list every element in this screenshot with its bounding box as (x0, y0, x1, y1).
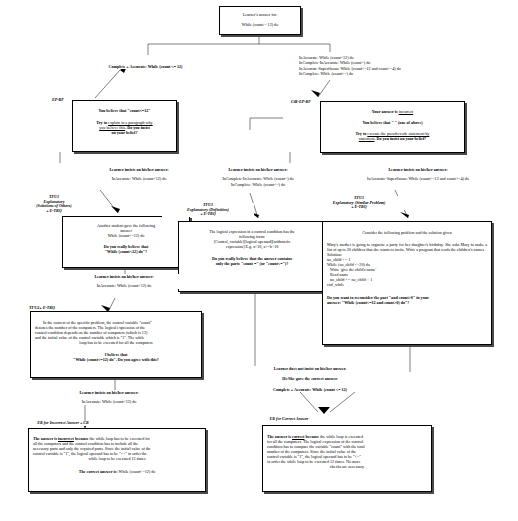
tfu1-sim-q1: Do you want to reconsider the part "and … (327, 288, 487, 300)
tfu1-sim-line1: Consider the following problem and the s… (327, 225, 487, 235)
not-insist-l2: He/She gave the correct answer. (215, 371, 405, 381)
node-learner-answer[interactable]: Learner's answer for: While (count = 12)… (219, 6, 301, 35)
label-tfu1-similar: TFU1 Explanatory (Similar Problem) + E-T… (305, 196, 413, 210)
edge-not-insist: Learner does not insist on his/her answe… (215, 366, 405, 392)
label-tfu1-solutions: TFU1 Explanatory (Solutions of Others) +… (18, 195, 90, 214)
er-inc-final-b: While (count<=12) do (119, 469, 156, 474)
node-tfu1-definition[interactable]: The logical expression in a control cond… (178, 221, 326, 292)
tfu1-def-line5: Do you really believe that the answer co… (183, 249, 321, 261)
cir-line2: You believe that " " (one of above) (325, 114, 460, 125)
node-tfu1-solutions-of-others[interactable]: Another student gave the following answe… (62, 216, 190, 268)
ep-rf-line4: on your belief? (77, 130, 172, 135)
tfu2-line1: In the context of the specific problem, … (35, 315, 197, 325)
er-inc-final: The correct answer is: While (count<=12)… (33, 461, 201, 474)
root-line1: Learner's answer for: (224, 10, 296, 17)
insists-bottom-body: InAccurate: While (count<12) do (35, 395, 183, 404)
tfu1-def-line6: only the parts "count =" (or "count<=")? (183, 261, 321, 266)
label-cir-ep-rf: CiR-EP-RF (283, 100, 319, 105)
cir-line1-pre: Your answer is (372, 109, 399, 114)
tfu1-sim-q2: answer: "While (count<=12 and count>0) d… (327, 300, 487, 305)
cir-line4-post: . Do you insist on your belief? (375, 136, 427, 141)
label-er-incorrect: ER for Incorrect Answer + CR (22, 421, 104, 426)
tfu1-sim-para: Mary's mother is going to organize a par… (327, 235, 487, 252)
wrong-branch-item-3: InComplete: While (count<=) do (299, 71, 514, 76)
edge-insists-left-2: Learner insists on his/her answer: InAcc… (50, 274, 198, 289)
edge-insists-right: Learner insists on his/her answer: InAcc… (322, 167, 514, 182)
diagram-canvas: Learner's answer for: While (count = 12)… (0, 0, 518, 521)
tfu1-def-line1: The logical expression in a control cond… (183, 225, 321, 234)
er-cor-p1: The answer is correct because the while … (267, 429, 427, 439)
tfu2-line6: I believe that (35, 345, 197, 357)
node-er-correct-answer[interactable]: The answer is correct because the while … (262, 425, 432, 492)
er-cor-l7: checks are necessary (267, 464, 427, 469)
label-tfu1-definition: TFU1 Explanatory (Definition) + E-TRQ (162, 203, 254, 217)
er-inc-p1: The answer is incorrect because the whil… (33, 432, 201, 441)
edge-insists-bottom: Learner insists on his/her answer: InAcc… (35, 390, 183, 405)
root-line2: While (count = 12) do (224, 17, 296, 27)
tfu1-sim-code: no_child <-- 1 While (no_child <=20) do … (327, 257, 487, 288)
cir-incorrect-link[interactable]: incorrect (399, 109, 414, 114)
label-er-correct: ER for Correct Answer (254, 417, 324, 422)
er-inc-final-a: The correct answer is: (79, 469, 119, 474)
tfu1-sol-line5: "While (count<12) do"? (67, 249, 185, 254)
node-tfu2[interactable]: In the context of the specific problem, … (30, 311, 202, 378)
not-insist-l3: Complete + Accurate: While (count <= 12) (215, 382, 405, 392)
cir-execute-link2[interactable]: statement (359, 136, 375, 141)
tfu1-sol-line4: Do you really believe that (67, 238, 185, 249)
edge-wrong-branch-list: InAccurate: While (count<12) do InComple… (299, 55, 514, 76)
node-tfu1-similar-problem[interactable]: Consider the following problem and the s… (322, 221, 492, 345)
label-ep-rf: EP-RF (45, 98, 71, 103)
tfu1-sol-line1: Another student gave the following (67, 220, 185, 228)
tfu1-sim-label3: + E-TRQ (305, 205, 413, 210)
tfu2-line7: "While (count<=12) do". Do you agree wit… (35, 357, 197, 362)
tfu1-sol-label4: + E-TRQ (18, 209, 90, 214)
node-ep-rf[interactable]: You believe that "count<=12" Try to expl… (72, 100, 177, 152)
edge-insists-mid: Learner insists on his/her answer: InCom… (178, 167, 338, 187)
insists-left2-body: InAccurate: While (count<12) do (50, 279, 198, 288)
insists-right-body: InAccurate-Superfluous: While (count<=12… (322, 172, 514, 181)
node-er-incorrect-answer[interactable]: The answer is incorrect because the whil… (28, 428, 206, 492)
insists-mid-body2: InComplete: While (count<=) do (178, 182, 338, 187)
label-tfu2: TFU2+ E-TRQ (20, 306, 64, 311)
insists-mid-body1: InComplete-InAccurate: While (count=) do (178, 172, 338, 181)
ep-rf-line1: You believe that "count<=12" (77, 104, 172, 113)
edge-complete-accurate-top: Complete + Accurate: While (count <= 12) (58, 64, 233, 69)
tfu1-def-label3: + E-TRQ (162, 212, 254, 217)
node-cir-ep-rf[interactable]: Your answer is incorrect You believe tha… (320, 101, 465, 153)
